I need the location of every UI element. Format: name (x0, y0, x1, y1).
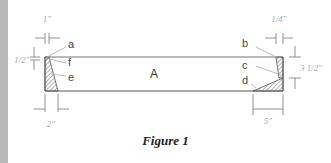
dim-left-height: 1/2" (14, 55, 30, 65)
dim-bottom-left: 2" (47, 119, 56, 129)
right-lower-hatched-wedge (253, 78, 283, 91)
label-b: b (242, 37, 248, 49)
label-f: f (68, 56, 72, 68)
label-c: c (242, 59, 248, 71)
label-e: e (68, 71, 74, 83)
dim-top-right: 1/4" (271, 14, 287, 24)
dim-top-left: 1" (43, 14, 52, 24)
label-d: d (242, 74, 248, 86)
dim-bottom-right: 5" (264, 116, 273, 126)
dim-right-height: 3 1/2" (299, 63, 322, 73)
label-A: A (150, 67, 158, 81)
label-a: a (68, 38, 75, 50)
figure-caption: Figure 1 (0, 133, 331, 149)
